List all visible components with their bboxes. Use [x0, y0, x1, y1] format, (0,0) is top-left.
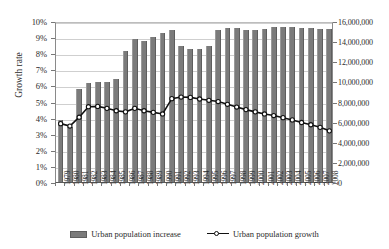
data-point-marker — [290, 118, 294, 122]
x-axis-tick — [240, 183, 241, 186]
x-axis-tick-label: 1987 — [137, 151, 146, 185]
x-axis-tick — [296, 183, 297, 186]
x-axis-tick-label: 2004 — [294, 151, 303, 185]
growth-line-path — [61, 97, 330, 131]
x-axis-tick-label: 1983 — [100, 151, 109, 185]
legend-item-urban-population-increase: Urban population increase — [70, 229, 181, 239]
x-axis-tick — [175, 183, 176, 186]
y-axis-right-tick — [333, 143, 337, 144]
x-axis-tick — [92, 183, 93, 186]
x-axis-tick — [222, 183, 223, 186]
x-axis-tick-label: 1984 — [109, 151, 118, 185]
x-axis-tick-label: 2002 — [276, 151, 285, 185]
x-axis-tick — [305, 183, 306, 186]
x-axis-tick — [250, 183, 251, 186]
data-point-marker — [142, 109, 146, 113]
x-axis-tick — [148, 183, 149, 186]
y-axis-left-tick-label: 8% — [36, 49, 47, 59]
y-axis-left-tick-label: 10% — [32, 17, 47, 27]
x-axis-tick-label: 2005 — [304, 151, 313, 185]
x-axis-tick-label: 1991 — [174, 151, 183, 185]
x-axis-tick — [74, 183, 75, 186]
x-axis-tick — [101, 183, 102, 186]
y-axis-left-tick — [51, 22, 55, 23]
y-axis-left-tick-label: 9% — [36, 33, 47, 43]
data-point-marker — [198, 97, 202, 101]
data-point-marker — [235, 105, 239, 109]
y-axis-left-tick-label: 3% — [36, 130, 47, 140]
x-axis-tick-label: 1988 — [146, 151, 155, 185]
x-axis-tick — [157, 183, 158, 186]
data-point-marker — [59, 122, 63, 126]
data-point-marker — [188, 95, 192, 99]
y-axis-left-tick-label: 7% — [36, 65, 47, 75]
data-point-marker — [225, 102, 229, 106]
line-circle-marker-icon — [207, 230, 229, 238]
data-point-marker — [272, 113, 276, 117]
data-point-marker — [309, 123, 313, 127]
y-axis-left-tick — [51, 86, 55, 87]
x-axis-tick — [277, 183, 278, 186]
x-axis-tick — [120, 183, 121, 186]
data-point-marker — [281, 116, 285, 120]
data-point-marker — [96, 104, 100, 108]
y-axis-left-tick — [51, 119, 55, 120]
x-axis-tick — [185, 183, 186, 186]
data-point-marker — [105, 106, 109, 110]
x-axis-tick-label: 1979 — [63, 151, 72, 185]
x-axis-tick-label: 1995 — [211, 151, 220, 185]
y-axis-left-tick-label: 6% — [36, 81, 47, 91]
data-point-marker — [253, 110, 257, 114]
data-point-marker — [179, 95, 183, 99]
y-axis-left-tick-label: 2% — [36, 146, 47, 156]
y-axis-right-tick-label: 2,000,000 — [338, 158, 369, 167]
data-point-marker — [86, 105, 90, 109]
x-axis-tick-label: 2001 — [267, 151, 276, 185]
x-axis-tick — [111, 183, 112, 186]
y-axis-left-tick — [51, 103, 55, 104]
x-axis-tick — [129, 183, 130, 186]
x-axis-labels: 1979198019811982198319841985198619871988… — [55, 185, 333, 225]
x-axis-tick — [314, 183, 315, 186]
data-point-marker — [77, 115, 81, 119]
x-axis-tick — [83, 183, 84, 186]
x-axis-tick-label: 1981 — [81, 151, 90, 185]
x-axis-tick-label: 1980 — [72, 151, 81, 185]
x-axis-tick — [213, 183, 214, 186]
x-axis-tick-label: 1986 — [128, 151, 137, 185]
data-point-marker — [318, 125, 322, 129]
y-axis-right-tick-label: 6,000,000 — [338, 118, 369, 127]
y-axis-right-tick — [333, 123, 337, 124]
x-axis-tick-label: 2008 — [331, 151, 340, 185]
y-axis-right-tick — [333, 62, 337, 63]
chart-legend: Urban population increase Urban populati… — [0, 229, 389, 239]
y-axis-right-labels: 02,000,0004,000,0006,000,0008,000,00010,… — [336, 22, 388, 183]
x-axis-tick-label: 1985 — [118, 151, 127, 185]
x-axis-tick-label: 2003 — [285, 151, 294, 185]
y-axis-right-tick-label: 12,000,000 — [338, 58, 373, 67]
x-axis-tick-label: 1997 — [229, 151, 238, 185]
data-point-marker — [133, 106, 137, 110]
x-axis-tick-label: 1992 — [183, 151, 192, 185]
y-axis-left-tick-label: 0% — [36, 178, 47, 188]
x-axis-tick-label: 1994 — [202, 151, 211, 185]
x-axis-tick — [64, 183, 65, 186]
x-axis-tick-label: 1982 — [90, 151, 99, 185]
y-axis-left-tick — [51, 54, 55, 55]
data-point-marker — [151, 110, 155, 114]
data-point-marker — [216, 99, 220, 103]
data-point-marker — [262, 112, 266, 116]
data-point-marker — [299, 120, 303, 124]
y-axis-right-tick — [333, 183, 337, 184]
y-axis-right-tick-label: 8,000,000 — [338, 98, 369, 107]
y-axis-right-tick-label: 4,000,000 — [338, 138, 369, 147]
y-axis-right-tick — [333, 163, 337, 164]
x-axis-tick — [231, 183, 232, 186]
data-point-marker — [68, 124, 72, 128]
y-axis-left-tick — [51, 38, 55, 39]
x-axis-tick-label: 1990 — [165, 151, 174, 185]
y-axis-left-title: Growth rate — [14, 20, 24, 130]
y-axis-right-tick-label: 14,000,000 — [338, 38, 373, 47]
y-axis-left-tick — [51, 151, 55, 152]
y-axis-left-tick — [51, 167, 55, 168]
